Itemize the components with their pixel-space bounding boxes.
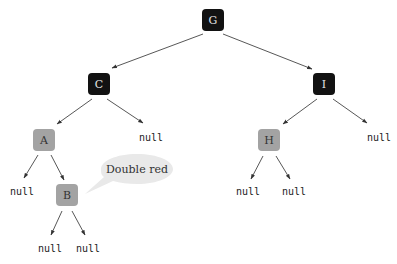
edge-g-i — [223, 34, 312, 69]
node-h-label: H — [264, 134, 274, 147]
node-g: G — [202, 9, 224, 31]
edge-i-null — [333, 99, 367, 123]
node-g-label: G — [209, 14, 218, 27]
node-b: B — [56, 184, 78, 206]
edge-i-h — [283, 99, 317, 124]
node-b-label: B — [63, 189, 71, 202]
edge-c-a — [57, 99, 92, 124]
null-leaf-b-right: null — [76, 243, 100, 254]
edge-a-null — [24, 155, 38, 178]
edge-h-null-left — [251, 156, 263, 179]
node-c: C — [88, 73, 110, 95]
null-leaf-a-left: null — [10, 186, 34, 197]
edge-h-null-right — [276, 156, 290, 179]
edge-b-null-right — [72, 211, 85, 235]
edge-a-b — [51, 155, 64, 180]
node-c-label: C — [95, 78, 103, 91]
node-a: A — [33, 129, 55, 151]
edge-g-c — [112, 34, 203, 68]
node-i: I — [313, 73, 335, 95]
tree-diagram: Double red G C I A H B null null null nu… — [0, 0, 397, 264]
edge-c-null — [107, 99, 143, 123]
node-a-label: A — [39, 134, 49, 147]
edge-b-null-left — [51, 211, 62, 235]
double-red-callout: Double red — [85, 154, 173, 194]
null-leaf-h-right: null — [282, 186, 306, 197]
node-i-label: I — [322, 78, 326, 91]
null-leaf-b-left: null — [38, 243, 62, 254]
null-leaf-c-right: null — [139, 132, 163, 143]
callout-text: Double red — [106, 163, 168, 176]
node-h: H — [258, 129, 280, 151]
null-leaf-h-left: null — [236, 186, 260, 197]
null-leaf-i-right: null — [367, 132, 391, 143]
